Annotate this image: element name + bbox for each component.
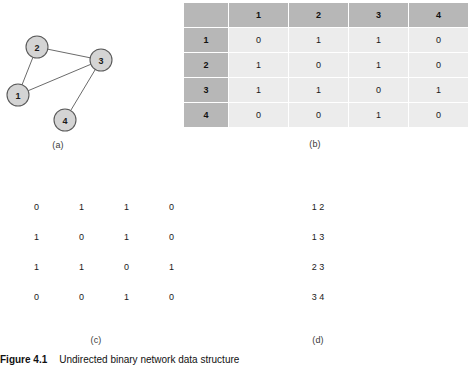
matrix-cell-3-4: 1 (149, 252, 194, 282)
graph-edge-2-3 (48, 49, 90, 58)
table-header-row: 1234 (184, 3, 468, 27)
edge-list-panel: 1 21 32 33 4 (283, 192, 353, 312)
network-graph: 1234 (0, 0, 180, 160)
matrix-cell-3-1: 1 (14, 252, 59, 282)
matrix-row: 0110 (14, 192, 194, 222)
matrix-cell-1-4: 0 (149, 192, 194, 222)
table-row-header-3: 3 (184, 78, 228, 102)
table-cell-2-3: 1 (349, 53, 408, 77)
table-row-header-4: 4 (184, 103, 228, 127)
table-cell-2-4: 0 (409, 53, 468, 77)
graph-node-2: 2 (26, 36, 48, 58)
table-row-header-2: 2 (184, 53, 228, 77)
table-cell-2-2: 0 (289, 53, 348, 77)
graph-node-1: 1 (7, 84, 29, 106)
figure-caption: Figure 4.1Undirected binary network data… (0, 354, 446, 365)
table-column-header-3: 3 (349, 3, 408, 27)
matrix-cell-4-4: 0 (149, 282, 194, 312)
subcaption-d: (d) (288, 335, 348, 345)
table-row: 40010 (184, 103, 468, 127)
subcaption-c: (c) (66, 335, 126, 345)
graph-edge-1-2 (22, 57, 33, 85)
table-cell-4-1: 0 (229, 103, 288, 127)
table-cell-4-4: 0 (409, 103, 468, 127)
graph-node-3: 3 (90, 49, 112, 71)
graph-edge-group (22, 49, 95, 110)
matrix-row: 1101 (14, 252, 194, 282)
matrix-cell-4-2: 0 (59, 282, 104, 312)
graph-node-label-2: 2 (34, 43, 39, 53)
graph-node-label-1: 1 (15, 91, 20, 101)
table-row: 21010 (184, 53, 468, 77)
matrix-cell-1-2: 1 (59, 192, 104, 222)
table-cell-4-2: 0 (289, 103, 348, 127)
table-column-header-2: 2 (289, 3, 348, 27)
table-cell-4-3: 1 (349, 103, 408, 127)
table-cell-3-1: 1 (229, 78, 288, 102)
matrix-cell-2-2: 0 (59, 222, 104, 252)
table-column-header-4: 4 (409, 3, 468, 27)
graph-edge-3-4 (71, 69, 96, 110)
plain-matrix-panel: 0110101011010010 (14, 192, 194, 312)
matrix-row: 1010 (14, 222, 194, 252)
figure-caption-number: Figure 4.1 (0, 354, 47, 365)
subcaption-a: (a) (28, 140, 88, 150)
graph-panel: 1234 (0, 0, 180, 160)
matrix-cell-1-1: 0 (14, 192, 59, 222)
matrix-cell-3-2: 1 (59, 252, 104, 282)
table-row-header-1: 1 (184, 28, 228, 52)
table-cell-3-3: 0 (349, 78, 408, 102)
figure-caption-text: Undirected binary network data structure (59, 354, 239, 365)
table-header: 1234 (184, 3, 468, 27)
matrix-cell-2-4: 0 (149, 222, 194, 252)
matrix-cell-1-3: 1 (104, 192, 149, 222)
table-row: 31101 (184, 78, 468, 102)
adjacency-matrix-table: 1234 10110210103110140010 (183, 2, 469, 128)
table-row: 10110 (184, 28, 468, 52)
table-body: 10110210103110140010 (184, 28, 468, 127)
matrix-cell-4-3: 1 (104, 282, 149, 312)
edge-list-item-1: 1 2 (283, 192, 353, 222)
table-cell-2-1: 1 (229, 53, 288, 77)
subcaption-b: (b) (285, 139, 345, 149)
table-cell-3-4: 1 (409, 78, 468, 102)
graph-node-label-3: 3 (98, 56, 103, 66)
plain-matrix-body: 0110101011010010 (14, 192, 194, 312)
edge-list-item-4: 3 4 (283, 282, 353, 312)
matrix-row: 0010 (14, 282, 194, 312)
table-cell-1-1: 0 (229, 28, 288, 52)
adjacency-table-panel: 1234 10110210103110140010 (183, 2, 463, 128)
matrix-cell-2-1: 1 (14, 222, 59, 252)
matrix-cell-3-3: 0 (104, 252, 149, 282)
table-cell-1-4: 0 (409, 28, 468, 52)
edge-list-item-3: 2 3 (283, 252, 353, 282)
matrix-cell-2-3: 1 (104, 222, 149, 252)
table-corner-cell (184, 3, 228, 27)
plain-adjacency-matrix: 0110101011010010 (14, 192, 194, 312)
table-column-header-1: 1 (229, 3, 288, 27)
graph-node-label-4: 4 (62, 116, 67, 126)
graph-node-4: 4 (54, 109, 76, 131)
graph-edge-1-3 (28, 64, 91, 90)
table-cell-1-2: 1 (289, 28, 348, 52)
table-cell-1-3: 1 (349, 28, 408, 52)
edge-list-item-2: 1 3 (283, 222, 353, 252)
matrix-cell-4-1: 0 (14, 282, 59, 312)
table-cell-3-2: 1 (289, 78, 348, 102)
